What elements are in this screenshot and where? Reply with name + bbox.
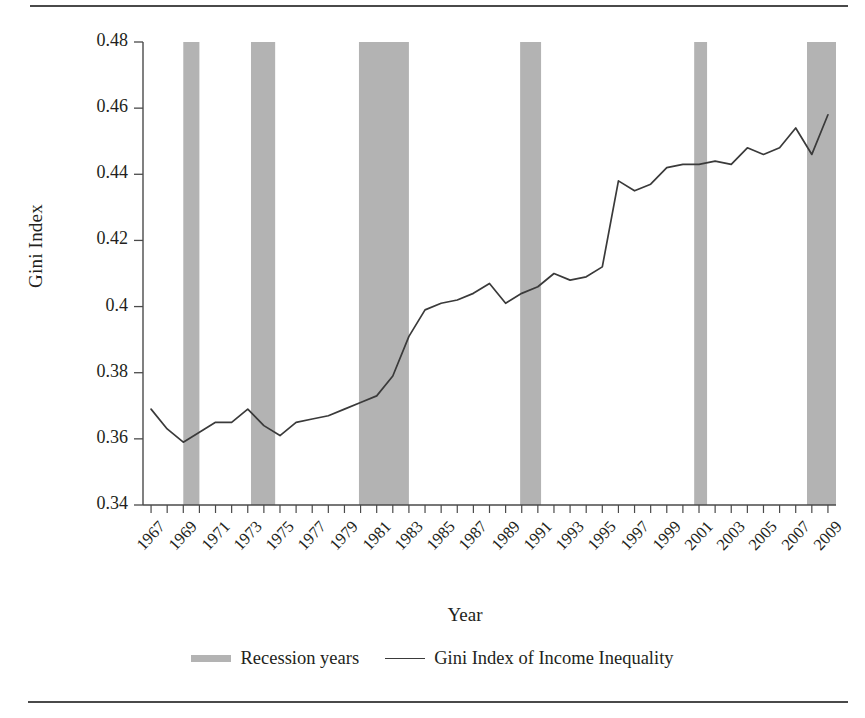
y-tick-label: 0.38 (56, 361, 128, 382)
recession-band (251, 42, 275, 505)
recession-band (520, 42, 541, 505)
y-tick-label: 0.36 (56, 427, 128, 448)
recession-swatch-icon (191, 655, 231, 662)
y-tick-label: 0.48 (56, 30, 128, 51)
chart-legend: Recession years Gini Index of Income Ine… (0, 648, 865, 669)
y-tick-label: 0.42 (56, 228, 128, 249)
recession-band (807, 42, 836, 505)
recession-band (694, 42, 707, 505)
axes-group (143, 42, 836, 505)
legend-label-recession: Recession years (240, 648, 359, 669)
y-tick-label: 0.46 (56, 96, 128, 117)
legend-label-gini: Gini Index of Income Inequality (434, 648, 673, 669)
axis-ticks-group (134, 42, 828, 513)
legend-item-recession: Recession years (191, 648, 359, 669)
chart-plot-area (0, 0, 865, 718)
recession-band (183, 42, 199, 505)
y-tick-label: 0.34 (56, 493, 128, 514)
figure-container: Gini Index Year 0.340.360.380.40.420.440… (0, 0, 865, 718)
line-swatch-icon (385, 658, 425, 659)
recession-band (359, 42, 409, 505)
legend-item-gini: Gini Index of Income Inequality (385, 648, 673, 669)
y-tick-label: 0.44 (56, 162, 128, 183)
y-tick-label: 0.4 (56, 295, 128, 316)
